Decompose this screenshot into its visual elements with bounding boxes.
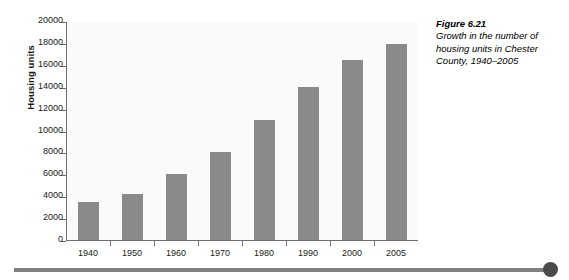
y-tick-label: 12000 (38, 103, 63, 113)
y-tick-label: 14000 (38, 81, 63, 91)
x-tick-mark (198, 241, 199, 246)
x-tick-mark (286, 241, 287, 246)
bar (298, 87, 319, 240)
caption-description: Growth in the number of housing units in… (436, 30, 562, 67)
bar (386, 44, 407, 240)
bar (210, 152, 231, 240)
y-tick-label: 18000 (38, 37, 63, 47)
x-tick-mark (242, 241, 243, 246)
x-tick-label: 1970 (210, 248, 230, 258)
x-tick-label: 1950 (122, 248, 142, 258)
y-tick-label: 10000 (38, 125, 63, 135)
footer-knob-icon (543, 262, 558, 277)
x-tick-label: 1940 (78, 248, 98, 258)
y-tick-label: 20000 (38, 15, 63, 25)
y-tick-label: 8000 (43, 146, 63, 156)
x-tick-mark (330, 241, 331, 246)
y-tick-label: 4000 (43, 190, 63, 200)
bar (166, 174, 187, 240)
x-tick-label: 1980 (254, 248, 274, 258)
plot-area: 0200040006000800010000120001400016000180… (66, 22, 418, 241)
bar (254, 120, 275, 240)
y-axis-line (66, 22, 67, 241)
x-tick-mark (374, 241, 375, 246)
figure-caption: Figure 6.21 Growth in the number of hous… (436, 18, 562, 68)
plot-background (66, 22, 418, 241)
x-tick-label: 2000 (342, 248, 362, 258)
x-tick-label: 1960 (166, 248, 186, 258)
bar (342, 60, 363, 240)
y-tick-label: 16000 (38, 59, 63, 69)
y-tick-label: 6000 (43, 168, 63, 178)
y-tick-label: 0 (58, 234, 63, 244)
x-tick-mark (154, 241, 155, 246)
footer-rule (14, 268, 549, 272)
bar (122, 194, 143, 240)
y-axis-title: Housing units (25, 18, 36, 138)
x-tick-mark (110, 241, 111, 246)
bar (78, 202, 99, 240)
y-tick-label: 2000 (43, 212, 63, 222)
x-tick-label: 2005 (386, 248, 406, 258)
figure-housing-units-bar-chart: Housing units 02000400060008000100001200… (0, 0, 569, 280)
caption-figure-number: Figure 6.21 (436, 18, 562, 30)
x-tick-label: 1990 (298, 248, 318, 258)
